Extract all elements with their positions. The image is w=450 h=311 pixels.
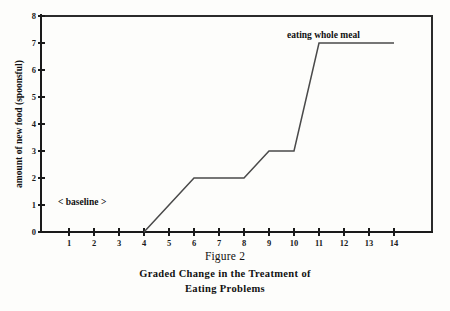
x-tick-label-9: 9: [267, 238, 271, 248]
x-tick-label-6: 6: [192, 238, 196, 248]
x-tick-label-13: 13: [365, 238, 374, 248]
y-tick-label-6: 6: [32, 65, 36, 75]
y-tick-label-8: 8: [32, 11, 36, 21]
figure-title-line-2: Eating Problems: [0, 282, 450, 295]
x-axis-tick-labels: 1 2 3 4 5 6 7 8 9 10 11 12 13 14: [67, 238, 399, 248]
chart-plot-area: 0 1 2 3 4 5 6 7 8 amount of new food (sp…: [0, 0, 450, 250]
data-series-eating-whole-meal: [144, 43, 394, 232]
y-tick-label-7: 7: [32, 38, 37, 48]
series-annotation-label: eating whole meal: [287, 30, 360, 40]
line-chart: 0 1 2 3 4 5 6 7 8 amount of new food (sp…: [0, 0, 450, 250]
x-tick-label-1: 1: [67, 238, 71, 248]
x-tick-label-8: 8: [242, 238, 246, 248]
y-axis-tick-labels: 0 1 2 3 4 5 6 7 8: [32, 11, 37, 237]
figure-container: 0 1 2 3 4 5 6 7 8 amount of new food (sp…: [0, 0, 450, 311]
y-tick-label-0: 0: [32, 227, 36, 237]
x-tick-label-4: 4: [142, 238, 147, 248]
y-tick-label-1: 1: [32, 200, 36, 210]
y-tick-label-4: 4: [32, 119, 37, 129]
x-tick-label-11: 11: [315, 238, 323, 248]
x-tick-label-14: 14: [390, 238, 399, 248]
y-tick-label-3: 3: [32, 146, 36, 156]
x-tick-label-12: 12: [340, 238, 349, 248]
x-tick-label-2: 2: [92, 238, 96, 248]
y-tick-label-5: 5: [32, 92, 36, 102]
baseline-annotation-label: < baseline >: [58, 197, 106, 207]
x-tick-label-10: 10: [290, 238, 299, 248]
figure-caption: Figure 2 Graded Change in the Treatment …: [0, 248, 450, 295]
x-tick-label-5: 5: [167, 238, 171, 248]
figure-number-label: Figure 2: [0, 248, 450, 265]
y-tick-label-2: 2: [32, 173, 36, 183]
y-axis-title: amount of new food (spoonsful): [14, 60, 25, 188]
x-tick-label-7: 7: [217, 238, 222, 248]
x-tick-label-3: 3: [117, 238, 121, 248]
figure-title-line-1: Graded Change in the Treatment of: [0, 267, 450, 280]
